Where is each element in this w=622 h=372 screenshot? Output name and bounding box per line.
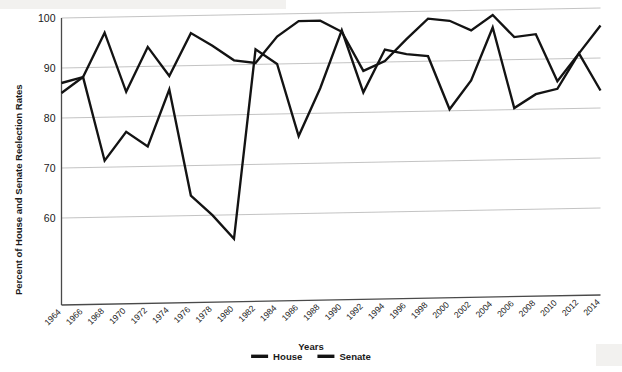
y-axis-title-group: Percent of House and Senate Reelection R… — [13, 84, 24, 295]
chart-canvas: Percent of House and Senate Reelection R… — [0, 0, 622, 372]
y-tick-label-60: 60 — [44, 212, 56, 224]
y-tick-label-100: 100 — [38, 12, 56, 24]
y-tick-label-80: 80 — [44, 112, 56, 124]
legend-label-senate: Senate — [339, 351, 370, 362]
legend-label-house: House — [273, 351, 302, 362]
y-tick-label-90: 90 — [44, 62, 56, 74]
scan-artifact-top — [0, 0, 286, 9]
y-tick-label-70: 70 — [44, 162, 56, 174]
reelection-rates-chart: Percent of House and Senate Reelection R… — [0, 0, 622, 372]
scan-artifact-corner — [596, 344, 622, 366]
y-axis-title: Percent of House and Senate Reelection R… — [13, 84, 24, 295]
